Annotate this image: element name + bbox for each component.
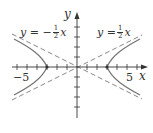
hyperbola-plot bbox=[0, 0, 153, 133]
fraction-denominator: 2 bbox=[54, 33, 58, 40]
x-tick-label-5: 5 bbox=[126, 72, 133, 83]
fraction-denominator: 2 bbox=[118, 33, 122, 40]
eq-var: x bbox=[60, 27, 66, 38]
x-axis-label: x bbox=[139, 70, 146, 82]
fraction: 1 2 bbox=[53, 25, 59, 40]
y-axis-arrow-icon bbox=[75, 12, 80, 19]
eq-lhs: y = bbox=[97, 27, 116, 38]
vertex-point-right bbox=[105, 65, 108, 68]
x-tick-label-neg5: −5 bbox=[13, 72, 29, 83]
asymptote-label-positive: y = 1 2 x bbox=[97, 25, 131, 40]
eq-var: x bbox=[124, 27, 130, 38]
asymptote-label-negative: y = − 1 2 x bbox=[20, 25, 66, 40]
y-axis-label: y bbox=[64, 8, 71, 20]
vertex-point-left bbox=[45, 65, 48, 68]
eq-lhs: y = − bbox=[20, 27, 52, 38]
fraction: 1 2 bbox=[117, 25, 123, 40]
